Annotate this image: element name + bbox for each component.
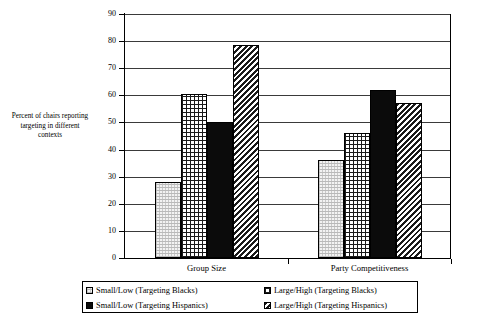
chart-figure: Percent of chairs reporting targeting in… (0, 0, 504, 328)
y-axis-tick-label: 90 (94, 10, 116, 18)
y-axis-tick-label: 80 (94, 37, 116, 45)
y-axis-title-line-3: contexts (2, 131, 98, 141)
legend-item-large-high-blacks[interactable]: Large/High (Targeting Blacks) (264, 286, 377, 295)
legend-swatch-light-dotted-icon (86, 287, 93, 294)
legend-swatch-solid-black-icon (86, 302, 93, 309)
y-axis-title-line-2: targeting in different (2, 122, 98, 132)
bar (181, 94, 207, 258)
y-axis-tick-label: 60 (94, 91, 116, 99)
legend-swatch-cross-hatch-icon (264, 287, 271, 294)
legend-label: Large/High (Targeting Blacks) (274, 286, 377, 295)
legend-item-large-high-hispanics[interactable]: Large/High (Targeting Hispanics) (264, 301, 387, 310)
x-axis-category-label: Party Competitiveness (288, 263, 451, 273)
bar (155, 182, 181, 258)
legend-item-small-low-blacks[interactable]: Small/Low (Targeting Blacks) (86, 286, 264, 295)
legend-label: Small/Low (Targeting Blacks) (96, 286, 198, 295)
y-axis-tick-label: 10 (94, 227, 116, 235)
y-axis-tick-label: 70 (94, 64, 116, 72)
x-axis-category-label: Group Size (125, 263, 288, 273)
bar (344, 133, 370, 258)
y-axis-tick-label: 30 (94, 173, 116, 181)
bar (318, 160, 344, 258)
y-axis-tick (119, 258, 125, 259)
x-axis-tick (451, 259, 452, 264)
bar (233, 45, 259, 258)
bar (396, 103, 422, 258)
y-axis-title-line-1: Percent of chairs reporting (2, 112, 98, 122)
y-axis-tick-label: 50 (94, 118, 116, 126)
legend-row: Small/Low (Targeting Blacks) Large/High … (86, 283, 414, 298)
legend-swatch-diagonal-hatch-icon (264, 302, 271, 309)
y-axis-tick-label: 0 (94, 254, 116, 262)
y-axis-title: Percent of chairs reporting targeting in… (2, 112, 98, 141)
bar (207, 122, 233, 258)
legend: Small/Low (Targeting Blacks) Large/High … (82, 281, 418, 313)
legend-row: Small/Low (Targeting Hispanics) Large/Hi… (86, 298, 414, 313)
legend-label: Small/Low (Targeting Hispanics) (96, 301, 208, 310)
y-axis-tick-label: 40 (94, 146, 116, 154)
legend-item-small-low-hispanics[interactable]: Small/Low (Targeting Hispanics) (86, 301, 264, 310)
y-axis-tick-label: 20 (94, 200, 116, 208)
legend-label: Large/High (Targeting Hispanics) (274, 301, 387, 310)
bar (370, 90, 396, 258)
